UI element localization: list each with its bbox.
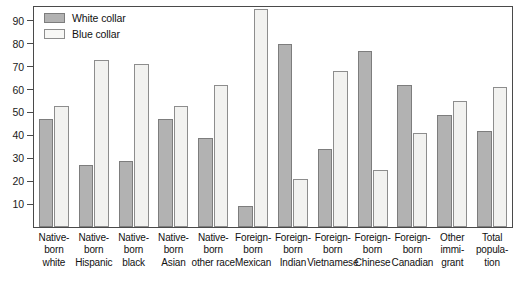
- y-axis-tick-label: 60: [13, 83, 24, 97]
- x-axis-labels: Native-bornwhiteNative-bornHispanicNativ…: [34, 232, 512, 282]
- legend-swatch-blue-collar: [44, 29, 65, 39]
- bar-group: [313, 7, 353, 227]
- bar-group: [154, 7, 194, 227]
- x-axis-label: Totalpopula-tion: [465, 232, 519, 269]
- bar: [413, 133, 428, 227]
- y-axis-tick: 30: [0, 151, 33, 165]
- bar-group: [432, 7, 472, 227]
- bar: [158, 119, 173, 227]
- bar: [437, 115, 452, 227]
- bar-group: [273, 7, 313, 227]
- y-axis-tick: 40: [0, 128, 33, 142]
- x-axis-label-line: popula-: [465, 244, 519, 256]
- bar: [397, 85, 412, 227]
- legend-item-white-collar: White collar: [44, 11, 126, 25]
- bar: [278, 44, 293, 227]
- x-axis-label-line: Total: [465, 232, 519, 244]
- bar: [214, 85, 229, 227]
- bar: [134, 64, 149, 227]
- y-axis-tick-label: 20: [13, 174, 24, 188]
- bar: [453, 101, 468, 227]
- y-axis-tick: 90: [0, 14, 33, 28]
- y-axis-tick: 70: [0, 60, 33, 74]
- bar: [79, 165, 94, 227]
- y-axis-tick-label: 30: [13, 151, 24, 165]
- bar-chart: 102030405060708090 White collar Blue col…: [0, 0, 520, 284]
- y-axis-tick-label: 80: [13, 37, 24, 51]
- y-axis-tick: 60: [0, 83, 33, 97]
- y-axis-tick: 50: [0, 105, 33, 119]
- y-axis-tick-label: 50: [13, 105, 24, 119]
- legend-swatch-white-collar: [44, 13, 65, 23]
- bar: [174, 106, 189, 227]
- bar: [333, 71, 348, 227]
- bar: [54, 106, 69, 227]
- y-axis-tick-label: 10: [13, 197, 24, 211]
- y-axis: 102030405060708090: [0, 0, 33, 234]
- y-axis-tick-label: 70: [13, 60, 24, 74]
- bar: [318, 149, 333, 227]
- bar: [293, 179, 308, 227]
- x-axis-label-line: tion: [465, 257, 519, 269]
- bar: [238, 206, 253, 227]
- y-axis-tick: 10: [0, 197, 33, 211]
- bar-group: [472, 7, 512, 227]
- bar: [254, 9, 269, 227]
- bar: [358, 51, 373, 227]
- bar-group: [233, 7, 273, 227]
- bar: [119, 161, 134, 227]
- bar-group: [193, 7, 233, 227]
- chart-legend: White collar Blue collar: [44, 11, 126, 43]
- legend-item-blue-collar: Blue collar: [44, 27, 126, 41]
- bar: [198, 138, 213, 227]
- y-axis-tick-label: 90: [13, 14, 24, 28]
- bar: [477, 131, 492, 227]
- legend-label-white-collar: White collar: [72, 12, 126, 24]
- y-axis-tick: 20: [0, 174, 33, 188]
- bar: [94, 60, 109, 227]
- bar: [373, 170, 388, 227]
- legend-label-blue-collar: Blue collar: [72, 28, 120, 40]
- y-axis-tick: 80: [0, 37, 33, 51]
- bar-group: [393, 7, 433, 227]
- bar: [493, 87, 508, 227]
- bar: [39, 119, 54, 227]
- y-axis-tick-label: 40: [13, 128, 24, 142]
- bar-group: [353, 7, 393, 227]
